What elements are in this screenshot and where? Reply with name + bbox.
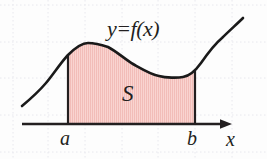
region-label: S (122, 82, 134, 105)
function-label: y=f(x) (107, 18, 159, 40)
x-axis-label: x (226, 129, 235, 149)
figure-container: y=f(x) S a b x (0, 0, 267, 159)
upper-bound-label: b (187, 128, 197, 148)
lower-bound-label: a (60, 128, 70, 148)
